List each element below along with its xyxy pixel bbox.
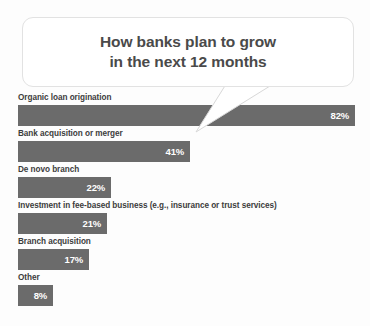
chart-row: Other 8%	[0, 273, 370, 309]
title-speech-bubble: How banks plan to grow in the next 12 mo…	[22, 17, 354, 87]
bar: 41%	[18, 141, 190, 162]
page-title: How banks plan to grow in the next 12 mo…	[100, 32, 276, 72]
bar-value-label: 22%	[87, 183, 105, 193]
chart-row: Investment in fee-based business (e.g., …	[0, 201, 370, 237]
chart-row: Branch acquisition 17%	[0, 237, 370, 273]
bar-chart: Organic loan origination 82% Bank acquis…	[0, 93, 370, 309]
bar-value-label: 82%	[331, 111, 349, 121]
bar: 22%	[18, 177, 111, 198]
chart-row: Bank acquisition or merger 41%	[0, 129, 370, 165]
bar: 82%	[18, 105, 355, 126]
bar: 21%	[18, 213, 107, 234]
bar-value-label: 17%	[65, 255, 83, 265]
category-label: Organic loan origination	[18, 93, 111, 102]
category-label: Investment in fee-based business (e.g., …	[18, 201, 277, 210]
chart-page: { "title": "How banks plan to grow\nin t…	[0, 0, 370, 326]
bar-value-label: 21%	[83, 219, 101, 229]
chart-row: De novo branch 22%	[0, 165, 370, 201]
category-label: De novo branch	[18, 165, 79, 174]
bar: 17%	[18, 249, 89, 270]
bar-value-label: 41%	[166, 147, 184, 157]
category-label: Branch acquisition	[18, 237, 91, 246]
category-label: Other	[18, 273, 40, 282]
category-label: Bank acquisition or merger	[18, 129, 123, 138]
bar: 8%	[18, 285, 53, 306]
bar-value-label: 8%	[34, 291, 47, 301]
chart-row: Organic loan origination 82%	[0, 93, 370, 129]
